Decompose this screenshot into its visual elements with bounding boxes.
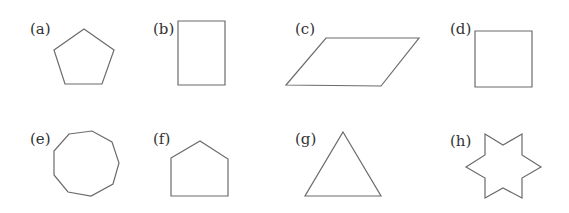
- shape-c-label: (c): [295, 20, 315, 38]
- parallelogram-shape: [286, 38, 419, 86]
- shape-d-label: (d): [450, 20, 471, 38]
- six-pointed-star-shape: [466, 134, 541, 198]
- rectangle-shape: [178, 21, 225, 85]
- pentagon-shape: [54, 29, 114, 84]
- shape-g-label: (g): [295, 130, 316, 148]
- shape-h-group: (h): [450, 132, 541, 198]
- shape-b-label: (b): [153, 20, 174, 38]
- shape-g-group: (g): [295, 130, 381, 196]
- shape-b-group: (b): [153, 20, 225, 85]
- shape-a-group: (a): [30, 20, 114, 84]
- shape-e-label: (e): [30, 130, 51, 148]
- shape-c-group: (c): [286, 20, 419, 86]
- shape-f-group: (f): [153, 130, 228, 196]
- shape-d-group: (d): [450, 20, 532, 87]
- shape-f-label: (f): [153, 130, 170, 148]
- shape-h-label: (h): [450, 132, 471, 150]
- house-pentagon-shape: [171, 141, 228, 196]
- nonagon-shape: [54, 131, 119, 196]
- triangle-shape: [305, 132, 381, 196]
- shapes-figure: (a) (b) (c) (d) (e) (f) (g) (h): [0, 0, 569, 213]
- square-shape: [475, 31, 532, 87]
- shape-a-label: (a): [30, 20, 51, 38]
- shape-e-group: (e): [30, 130, 119, 196]
